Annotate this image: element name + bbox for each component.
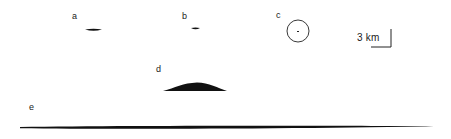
diagram-shapes bbox=[0, 0, 451, 139]
shape-e-long-thin-lens bbox=[20, 126, 434, 129]
shape-a-thin-lens bbox=[85, 29, 102, 31]
shape-b-small-lens bbox=[191, 27, 200, 29]
scale-bar bbox=[371, 29, 391, 47]
shape-d-dome bbox=[163, 83, 227, 92]
diagram-canvas: a b c d e 3 km bbox=[0, 0, 451, 139]
